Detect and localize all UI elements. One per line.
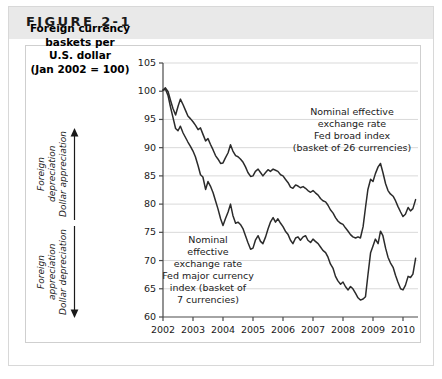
x-tick-label: 2005: [236, 324, 270, 335]
major-index-annotation: Nominaleffectiveexchange rateFed major c…: [148, 234, 268, 306]
y-tick-label: 60: [130, 311, 156, 322]
annotation-line: index (basket of: [148, 282, 268, 294]
annotation-line: (basket of 26 currencies): [276, 142, 428, 154]
annotation-line: effective: [148, 246, 268, 258]
x-tick-label: 2010: [386, 324, 420, 335]
x-tick-label: 2006: [266, 324, 300, 335]
direction-up-line-3: Dollar appreciation: [58, 131, 69, 217]
annotation-line: Nominal effective: [276, 106, 428, 118]
axis-title-line-1: Foreign currency: [12, 22, 148, 36]
direction-up-line-2: depreciation: [47, 131, 58, 217]
x-tick-label: 2003: [176, 324, 210, 335]
x-tick-label: 2009: [356, 324, 390, 335]
chart-axis-title: Foreign currency baskets per U.S. dollar…: [12, 22, 148, 76]
broad-index-annotation: Nominal effectiveexchange rateFed broad …: [276, 106, 428, 154]
annotation-line: exchange rate: [276, 118, 428, 130]
y-tick-label: 100: [130, 85, 156, 96]
annotation-line: Nominal: [148, 234, 268, 246]
up-arrow-icon: [69, 128, 80, 220]
x-tick-label: 2008: [326, 324, 360, 335]
y-tick-label: 105: [130, 57, 156, 68]
x-tick-label: 2002: [146, 324, 180, 335]
direction-down-line-2: appreciation: [47, 229, 58, 315]
direction-up-text: Foreign depreciation Dollar appreciation: [36, 131, 69, 217]
annotation-line: 7 currencies): [148, 294, 268, 306]
figure-container: FIGURE 2-1 Foreign currency baskets per …: [0, 0, 442, 379]
y-tick-label: 95: [130, 113, 156, 124]
direction-down-line-1: Foreign: [36, 229, 47, 315]
x-tick-label: 2004: [206, 324, 240, 335]
y-tick-label: 80: [130, 198, 156, 209]
direction-up-line-1: Foreign: [36, 131, 47, 217]
x-tick-label: 2007: [296, 324, 330, 335]
direction-annotation-up: Foreign depreciation Dollar appreciation: [36, 128, 80, 220]
axis-title-line-4: (Jan 2002 = 100): [12, 63, 148, 77]
axis-title-line-3: U.S. dollar: [12, 49, 148, 63]
y-tick-label: 90: [130, 142, 156, 153]
axis-title-line-2: baskets per: [12, 36, 148, 50]
direction-down-text: Foreign appreciation Dollar depreciation: [36, 229, 69, 315]
y-tick-label: 85: [130, 170, 156, 181]
annotation-line: exchange rate: [148, 258, 268, 270]
annotation-line: Fed broad index: [276, 130, 428, 142]
direction-annotation-down: Foreign appreciation Dollar depreciation: [36, 226, 80, 318]
down-arrow-icon: [69, 226, 80, 318]
direction-down-line-3: Dollar depreciation: [58, 229, 69, 315]
annotation-line: Fed major currency: [148, 270, 268, 282]
